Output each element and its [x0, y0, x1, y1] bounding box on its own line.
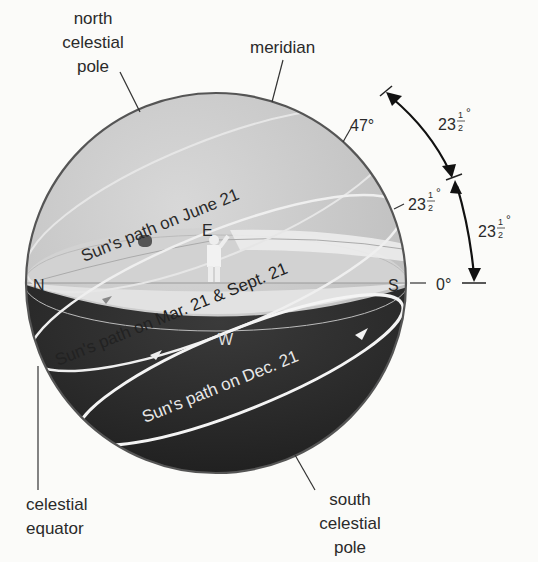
- south-pole-leader: [295, 455, 315, 490]
- north-pole-label-2: celestial: [62, 33, 123, 52]
- direction-e: E: [202, 222, 213, 239]
- svg-text:2: 2: [428, 203, 433, 213]
- svg-text:1: 1: [428, 190, 433, 200]
- arc-lower-label: 23: [478, 223, 496, 240]
- north-pole-label-1: north: [74, 9, 113, 28]
- svg-text:°: °: [506, 213, 511, 227]
- svg-text:2: 2: [458, 123, 463, 133]
- meridian-leader: [272, 60, 283, 102]
- angle-0-label: 0°: [436, 276, 451, 293]
- svg-text:1: 1: [498, 217, 503, 227]
- direction-w: W: [218, 331, 234, 348]
- angle-47-label: 47°: [350, 117, 374, 134]
- svg-text:2: 2: [498, 230, 503, 240]
- svg-text:°: °: [436, 186, 441, 200]
- meridian-label: meridian: [250, 38, 315, 57]
- direction-n: N: [33, 277, 45, 294]
- north-pole-leader: [120, 72, 140, 112]
- arc-upper-label: 23: [438, 116, 456, 133]
- equator-label-1: celestial: [26, 495, 87, 514]
- equator-label-2: equator: [26, 519, 84, 538]
- south-pole-label-1: south: [329, 490, 371, 509]
- south-pole-label-2: celestial: [319, 514, 380, 533]
- angle-23-half-sphere: 23: [408, 196, 426, 213]
- celestial-sphere-diagram: north celestial pole meridian 47° 23 1 2…: [0, 0, 538, 562]
- svg-text:°: °: [466, 106, 471, 120]
- north-pole-label-3: pole: [77, 57, 109, 76]
- direction-s: S: [388, 277, 399, 294]
- svg-text:1: 1: [458, 110, 463, 120]
- south-pole-label-3: pole: [334, 538, 366, 557]
